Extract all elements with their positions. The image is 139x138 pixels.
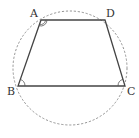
angle-b-arc — [20, 79, 25, 86]
vertex-label-c: C — [127, 85, 135, 98]
trapezoid-abcd — [18, 20, 125, 86]
circumscribed-circle — [13, 11, 127, 125]
angle-c-arc — [118, 79, 123, 86]
vertex-label-b: B — [7, 85, 15, 98]
vertex-label-d: D — [106, 7, 115, 20]
trapezoid-circle-diagram: A D B C — [0, 0, 139, 138]
vertex-label-a: A — [29, 7, 39, 20]
